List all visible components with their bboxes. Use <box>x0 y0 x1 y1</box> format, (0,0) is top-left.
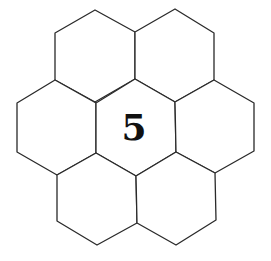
hex-grid-diagram: 5 <box>0 0 271 261</box>
center-cell-number: 5 <box>121 106 146 148</box>
